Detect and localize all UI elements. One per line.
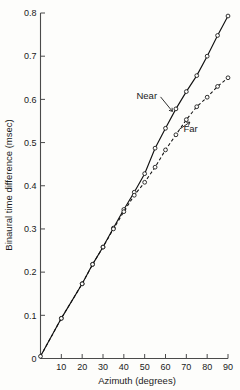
data-point-near: [184, 90, 188, 94]
binaural-time-difference-chart: 00.10.20.30.40.50.60.70.8 10203040506070…: [0, 0, 240, 390]
y-tick-label: 0.3: [24, 224, 37, 234]
y-tick-label: 0.5: [24, 138, 37, 148]
data-point-far: [112, 227, 116, 231]
chart-figure: 00.10.20.30.40.50.60.70.8 10203040506070…: [0, 0, 240, 390]
data-point-far: [184, 118, 188, 122]
y-tick-label: 0: [31, 354, 36, 364]
data-point-far: [216, 85, 220, 89]
data-point-far: [59, 316, 63, 320]
y-tick-label: 0.7: [24, 51, 37, 61]
data-point-near: [205, 54, 209, 58]
x-tick-label: 10: [56, 362, 66, 372]
data-point-far: [143, 180, 147, 184]
y-axis-title: Binaural time difference (msec): [3, 119, 14, 250]
data-point-near: [143, 172, 147, 176]
x-tick-label: 60: [160, 362, 170, 372]
data-point-far: [91, 262, 95, 266]
y-tick-label: 0.6: [24, 95, 37, 105]
x-tick-label: 70: [181, 362, 191, 372]
data-point-far: [80, 282, 84, 286]
y-tick-label: 0.8: [24, 8, 37, 18]
y-tick-label: 0.1: [24, 311, 37, 321]
x-tick-label: 90: [223, 362, 233, 372]
data-point-far: [101, 245, 105, 249]
data-point-near: [226, 14, 230, 18]
data-point-far: [132, 193, 136, 197]
x-tick-label: 30: [98, 362, 108, 372]
x-tick-label: 40: [119, 362, 129, 372]
data-point-far: [195, 105, 199, 109]
series-label-near: Near: [136, 90, 157, 101]
data-point-far: [174, 133, 178, 137]
data-point-origin: [39, 354, 43, 358]
y-tick-label: 0.2: [24, 267, 37, 277]
data-point-near: [153, 146, 157, 150]
data-point-far: [153, 165, 157, 169]
data-point-near: [164, 126, 168, 130]
series-label-far: Far: [183, 123, 197, 134]
x-tick-label: 80: [202, 362, 212, 372]
x-tick-label: 20: [77, 362, 87, 372]
data-point-far: [122, 210, 126, 214]
data-point-near: [216, 34, 220, 38]
x-tick-label: 50: [140, 362, 150, 372]
data-point-far: [226, 76, 230, 80]
data-point-far: [205, 95, 209, 99]
data-point-near: [174, 107, 178, 111]
data-point-far: [164, 148, 168, 152]
data-point-near: [195, 74, 199, 78]
y-tick-label: 0.4: [24, 181, 37, 191]
x-axis-title: Azimuth (degrees): [98, 375, 176, 386]
